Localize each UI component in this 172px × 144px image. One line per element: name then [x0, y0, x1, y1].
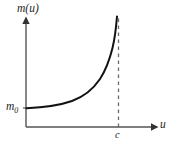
y-axis-arrowhead [22, 17, 29, 25]
x-axis-label: u [160, 119, 166, 131]
y-axis [22, 17, 29, 128]
rest-mass-subscript: 0 [14, 106, 18, 115]
rest-mass-label: m0 [6, 101, 18, 115]
x-axis-arrowhead [151, 123, 159, 130]
relativistic-mass-chart: m(u) u m0 c [0, 0, 172, 144]
speed-of-light-label: c [115, 130, 120, 141]
x-axis [26, 123, 159, 130]
y-axis-label: m(u) [17, 3, 39, 15]
chart-canvas [0, 0, 172, 144]
mass-curve [27, 17, 118, 109]
